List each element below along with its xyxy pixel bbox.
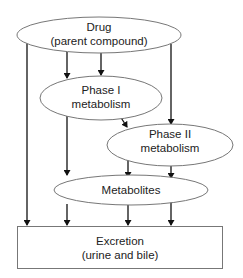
- node-excretion: Excretion (urine and bile): [18, 227, 223, 269]
- node-phase2: Phase II metabolism: [107, 124, 233, 166]
- node-phase1-title: Phase I: [82, 84, 121, 96]
- node-phase2-title: Phase II: [149, 128, 191, 140]
- node-metabolites-title: Metabolites: [102, 184, 161, 196]
- node-phase1-subtitle: metabolism: [72, 98, 131, 110]
- node-phase1: Phase I metabolism: [40, 76, 162, 120]
- node-excretion-title: Excretion: [96, 235, 144, 247]
- metabolism-flow-diagram: Drug (parent compound) Phase I metabolis…: [0, 0, 243, 278]
- node-phase2-subtitle: metabolism: [141, 142, 200, 154]
- node-drug-title: Drug: [87, 21, 112, 33]
- node-excretion-subtitle: (urine and bile): [82, 249, 159, 261]
- node-drug-subtitle: (parent compound): [50, 35, 147, 47]
- node-drug: Drug (parent compound): [17, 17, 181, 53]
- node-metabolites: Metabolites: [54, 175, 208, 205]
